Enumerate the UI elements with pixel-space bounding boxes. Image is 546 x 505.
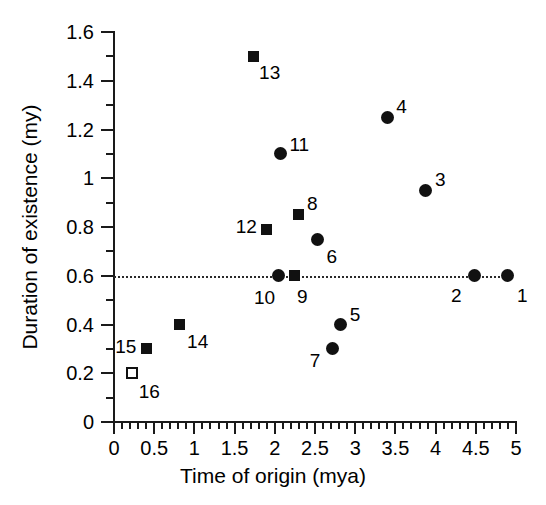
data-point-label-13: 13 — [259, 63, 280, 82]
y-tick-minor — [106, 348, 113, 350]
x-tick-minor — [258, 423, 260, 429]
data-point-7[interactable] — [326, 342, 339, 355]
x-tick-minor — [410, 423, 412, 429]
data-point-15[interactable] — [141, 343, 152, 354]
x-tick-major — [435, 423, 437, 434]
data-point-label-1: 1 — [517, 286, 528, 305]
data-point-5[interactable] — [334, 318, 347, 331]
y-tick-minor — [106, 299, 113, 301]
y-tick-label: 1.4 — [34, 71, 94, 91]
y-tick-minor — [106, 202, 113, 204]
y-tick-minor — [106, 104, 113, 106]
x-tick-minor — [386, 423, 388, 429]
x-tick-minor — [250, 423, 252, 429]
x-tick-major — [475, 423, 477, 434]
y-tick-major — [101, 129, 113, 131]
y-tick-label: 1 — [34, 168, 94, 188]
data-point-label-15: 15 — [115, 337, 136, 356]
x-tick-major — [515, 423, 517, 434]
x-tick-minor — [137, 423, 139, 429]
y-tick-label: 1.6 — [34, 22, 94, 42]
data-point-2[interactable] — [468, 269, 481, 282]
y-tick-label: 0 — [34, 412, 94, 432]
x-tick-minor — [266, 423, 268, 429]
data-point-label-7: 7 — [310, 351, 321, 370]
data-point-label-4: 4 — [396, 97, 407, 116]
x-tick-minor — [330, 423, 332, 429]
data-point-label-14: 14 — [187, 332, 208, 351]
data-point-13[interactable] — [248, 51, 259, 62]
data-point-14[interactable] — [174, 319, 185, 330]
x-tick-minor — [346, 423, 348, 429]
data-point-label-5: 5 — [350, 305, 361, 324]
y-tick-major — [101, 372, 113, 374]
data-point-3[interactable] — [419, 184, 432, 197]
y-tick-minor — [106, 153, 113, 155]
x-tick-minor — [370, 423, 372, 429]
data-point-4[interactable] — [381, 111, 394, 124]
x-tick-minor — [161, 423, 163, 429]
x-tick-major — [274, 423, 276, 434]
x-tick-major — [113, 423, 115, 434]
reference-line — [114, 276, 512, 278]
x-tick-minor — [378, 423, 380, 429]
x-tick-minor — [491, 423, 493, 429]
x-tick-major — [314, 423, 316, 434]
x-tick-minor — [169, 423, 171, 429]
y-tick-label: 0.2 — [34, 363, 94, 383]
x-tick-minor — [467, 423, 469, 429]
y-tick-label: 0.6 — [34, 266, 94, 286]
y-tick-label: 0.8 — [34, 217, 94, 237]
data-point-label-16: 16 — [139, 382, 160, 401]
data-point-label-10: 10 — [254, 288, 275, 307]
x-tick-major — [394, 423, 396, 434]
x-tick-minor — [218, 423, 220, 429]
data-point-label-6: 6 — [326, 247, 337, 266]
y-tick-major — [101, 177, 113, 179]
data-point-9[interactable] — [289, 270, 300, 281]
x-tick-minor — [402, 423, 404, 429]
y-tick-minor — [106, 250, 113, 252]
data-point-11[interactable] — [274, 147, 287, 160]
x-tick-minor — [443, 423, 445, 429]
y-tick-minor — [106, 55, 113, 57]
x-tick-minor — [290, 423, 292, 429]
x-tick-major — [234, 423, 236, 434]
x-tick-minor — [282, 423, 284, 429]
x-axis-title: Time of origin (mya) — [0, 464, 546, 488]
x-tick-minor — [507, 423, 509, 429]
data-point-12[interactable] — [261, 224, 272, 235]
x-tick-label: 5 — [486, 437, 546, 459]
x-tick-minor — [459, 423, 461, 429]
x-tick-minor — [177, 423, 179, 429]
y-tick-major — [101, 226, 113, 228]
data-point-16[interactable] — [126, 367, 138, 379]
x-tick-minor — [362, 423, 364, 429]
y-tick-label: 1.2 — [34, 120, 94, 140]
plot-area: 12345678910111213141516 — [114, 32, 516, 422]
x-tick-minor — [451, 423, 453, 429]
y-tick-minor — [106, 397, 113, 399]
y-tick-major — [101, 80, 113, 82]
x-tick-minor — [121, 423, 123, 429]
y-tick-major — [101, 421, 113, 423]
x-tick-minor — [322, 423, 324, 429]
data-point-10[interactable] — [272, 269, 285, 282]
x-tick-minor — [242, 423, 244, 429]
data-point-8[interactable] — [293, 209, 304, 220]
data-point-label-8: 8 — [307, 194, 318, 213]
y-tick-major — [101, 324, 113, 326]
x-tick-major — [354, 423, 356, 434]
y-axis-title: Duration of existence (my) — [18, 47, 42, 407]
x-tick-minor — [145, 423, 147, 429]
data-point-label-9: 9 — [297, 287, 308, 306]
data-point-label-3: 3 — [435, 170, 446, 189]
data-point-1[interactable] — [501, 269, 514, 282]
data-point-6[interactable] — [311, 233, 324, 246]
x-tick-minor — [209, 423, 211, 429]
y-tick-major — [101, 31, 113, 33]
scatter-chart-figure: 00.20.40.60.811.21.41.6 00.511.522.533.5… — [0, 0, 546, 505]
x-tick-minor — [201, 423, 203, 429]
x-tick-minor — [419, 423, 421, 429]
x-tick-minor — [306, 423, 308, 429]
